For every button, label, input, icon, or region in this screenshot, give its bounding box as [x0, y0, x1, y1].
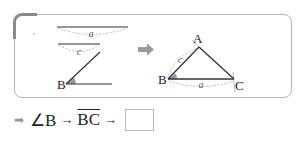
answer-blank-box[interactable]: [125, 109, 154, 131]
arrow-icon: →: [60, 112, 73, 128]
segment-c-label: c: [77, 46, 82, 57]
constructed-triangle: A B C c a: [158, 31, 244, 93]
segment-a-label: a: [89, 28, 94, 39]
vertex-b-label: B: [57, 77, 66, 92]
marker-dot: [33, 33, 35, 35]
construction-sequence: ➡ ∠B → BC →: [14, 108, 154, 132]
side-c-label: c: [178, 54, 183, 65]
angle-b-ray-upper: [66, 52, 100, 84]
given-parts: a c B: [33, 27, 128, 92]
step-segment-bc: BC: [77, 110, 100, 130]
arrow-icon: →: [104, 112, 117, 128]
step-angle-b: ∠B: [30, 110, 56, 131]
side-a-label: a: [199, 79, 204, 90]
vertex-b-label-triangle: B: [158, 72, 167, 87]
side-ac: [199, 47, 234, 79]
vertex-c-label: C: [235, 78, 244, 93]
right-arrow-icon: [138, 44, 154, 56]
lead-arrow-icon: ➡: [14, 113, 24, 128]
vertex-a-label: A: [193, 31, 203, 46]
side-ba: [168, 47, 199, 79]
